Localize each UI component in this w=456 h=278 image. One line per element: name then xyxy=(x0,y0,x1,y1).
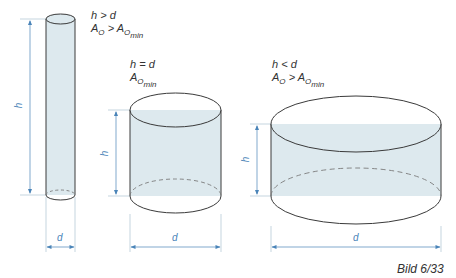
h-label-flat: h xyxy=(240,157,251,163)
condition-tall: h > d AO > AOmin xyxy=(91,9,143,42)
cylinder-tall xyxy=(20,14,75,252)
figure-caption: Bild 6/33 xyxy=(397,262,444,276)
cylinders-diagram xyxy=(0,0,456,278)
condition-equal: h = d AOmin xyxy=(130,58,156,91)
cylinder-flat xyxy=(250,96,441,252)
h-label-tall: h xyxy=(13,103,24,109)
condition-flat: h < d AO > AOmin xyxy=(272,58,324,91)
d-label-flat: d xyxy=(353,232,359,243)
d-label-equal: d xyxy=(172,232,178,243)
cylinder-equal xyxy=(108,93,221,252)
h-label-equal: h xyxy=(99,151,110,157)
d-label-tall: d xyxy=(57,232,63,243)
